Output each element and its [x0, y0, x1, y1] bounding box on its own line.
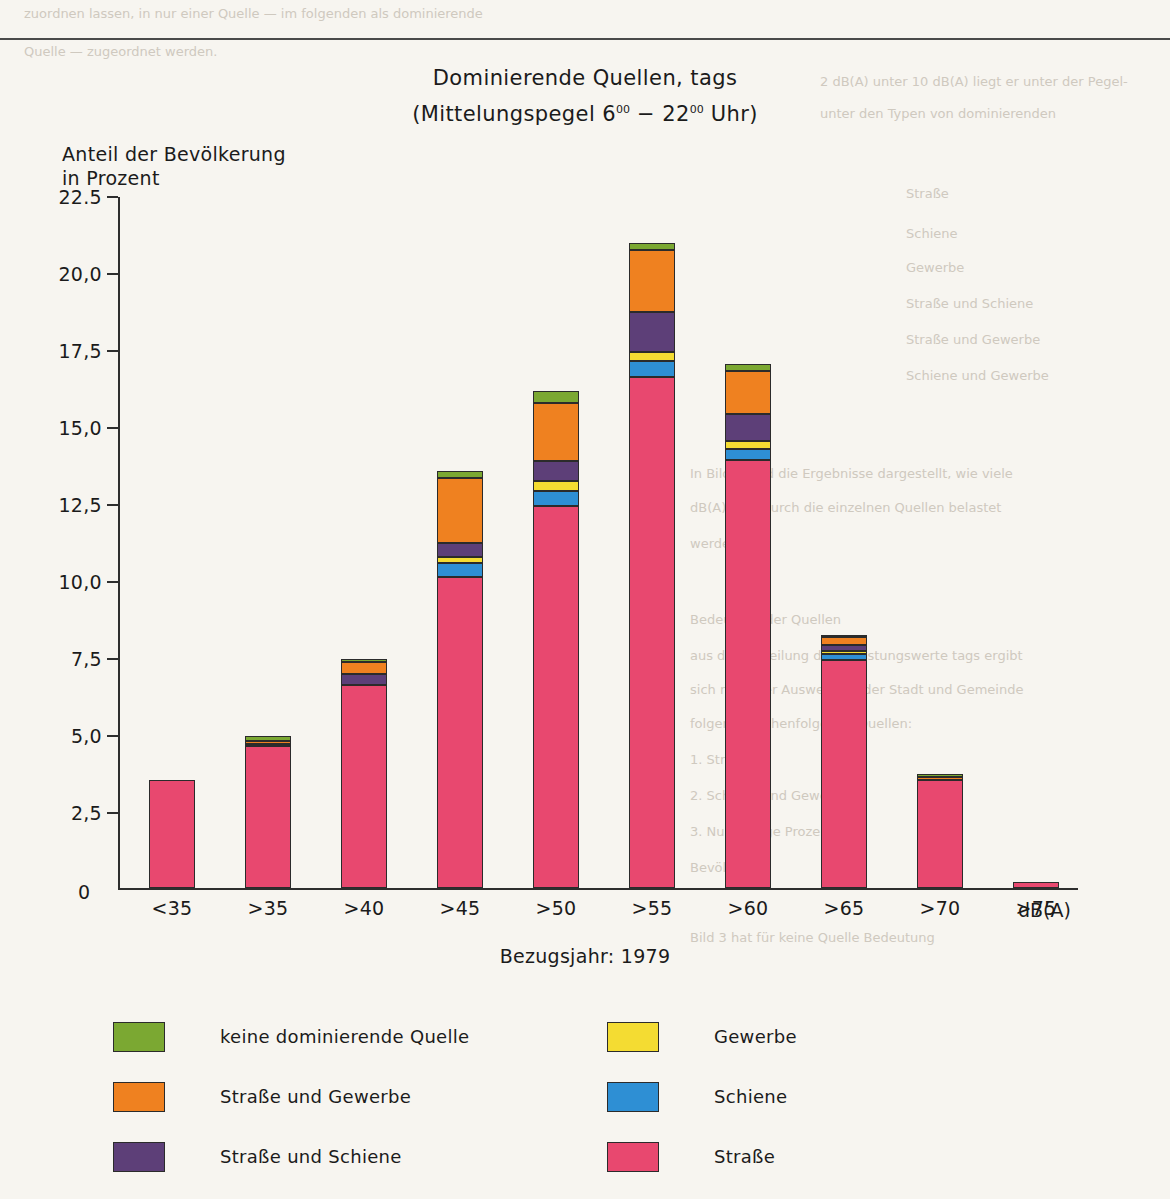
y-axis-line	[118, 197, 120, 890]
chart-subtitle: (Mittelungspegel 600 − 2200 Uhr)	[0, 94, 1170, 130]
bar-segment-3	[437, 543, 483, 557]
bar-segment-0	[437, 577, 483, 888]
chart-title: Dominierende Quellen, tags	[0, 62, 1170, 94]
bar-segment-5	[437, 471, 483, 479]
bar-gt50[interactable]: >50	[533, 391, 579, 888]
legend-column-left: keine dominierende QuelleStraße und Gewe…	[113, 1012, 469, 1192]
y-tick-mark	[107, 427, 118, 429]
y-tick-label: 5,0	[71, 725, 102, 747]
x-tick-label: >35	[248, 897, 289, 919]
bar-gt35[interactable]: >35	[245, 736, 291, 888]
x-axis-line	[118, 888, 1078, 890]
bar-segment-0	[341, 685, 387, 888]
legend-swatch-icon	[607, 1082, 659, 1112]
legend-item[interactable]: Schiene	[607, 1072, 797, 1121]
x-tick-label: >40	[344, 897, 385, 919]
bar-segment-3	[533, 461, 579, 481]
x-tick-label: >70	[920, 897, 961, 919]
bar-segment-1	[533, 491, 579, 506]
y-tick-label: 12,5	[58, 494, 102, 516]
bar-segment-1	[725, 449, 771, 460]
bar-segment-3	[341, 674, 387, 685]
bar-segment-5	[533, 391, 579, 403]
y-tick-label: 15,0	[58, 417, 102, 439]
bar-segment-0	[725, 460, 771, 888]
chart-subtitle-prefix: (Mittelungspegel 6	[412, 102, 616, 126]
x-tick-label: >65	[824, 897, 865, 919]
bar-segment-3	[629, 312, 675, 352]
bar-gt70[interactable]: >70	[917, 774, 963, 888]
y-tick-label: 22.5	[58, 186, 102, 208]
bar-gt65[interactable]: >65	[821, 635, 867, 888]
bar-gt45[interactable]: >45	[437, 471, 483, 888]
legend-swatch-icon	[113, 1142, 165, 1172]
bar-gt60[interactable]: >60	[725, 364, 771, 888]
legend-label: Straße	[714, 1146, 775, 1167]
chart-figure: Dominierende Quellen, tags (Mittelungspe…	[0, 0, 1170, 1199]
legend-swatch-icon	[607, 1142, 659, 1172]
legend-swatch-icon	[113, 1022, 165, 1052]
bar-gt75[interactable]: >75	[1013, 882, 1059, 888]
x-tick-label: >55	[632, 897, 673, 919]
bar-segment-1	[437, 563, 483, 577]
bar-segment-4	[533, 403, 579, 462]
bar-segment-4	[821, 637, 867, 645]
y-tick-mark	[107, 581, 118, 583]
bar-segment-0	[245, 746, 291, 888]
y-tick-label: 20,0	[58, 263, 102, 285]
x-tick-label: >50	[536, 897, 577, 919]
legend-label: keine dominierende Quelle	[220, 1026, 469, 1047]
y-tick-mark	[107, 812, 118, 814]
chart-subtitle-mid: − 22	[630, 102, 690, 126]
y-tick-mark	[107, 735, 118, 737]
bar-segment-4	[341, 662, 387, 674]
legend-item[interactable]: Gewerbe	[607, 1012, 797, 1061]
x-axis-unit-label: dB(A)	[1018, 899, 1071, 921]
chart-subtitle-sup-end: 00	[690, 103, 704, 116]
legend-swatch-icon	[607, 1022, 659, 1052]
y-axis-label: Anteil der Bevölkerung in Prozent	[62, 142, 286, 190]
legend-item[interactable]: Straße und Schiene	[113, 1132, 469, 1181]
bar-segment-0	[821, 660, 867, 888]
y-tick-label: 10,0	[58, 571, 102, 593]
bar-segment-5	[629, 243, 675, 251]
y-tick-label: 17,5	[58, 340, 102, 362]
chart-footnote: Bezugsjahr: 1979	[0, 945, 1170, 967]
bar-segment-1	[629, 361, 675, 376]
y-tick-mark	[107, 504, 118, 506]
y-tick-label: 0	[78, 881, 90, 903]
bar-segment-2	[629, 352, 675, 361]
legend-swatch-icon	[113, 1082, 165, 1112]
x-tick-label: >60	[728, 897, 769, 919]
y-tick-label: 7,5	[71, 648, 102, 670]
bar-gt55[interactable]: >55	[629, 243, 675, 888]
bar-segment-0	[149, 780, 195, 888]
legend-item[interactable]: Straße und Gewerbe	[113, 1072, 469, 1121]
y-tick-mark	[107, 196, 118, 198]
bar-segment-0	[917, 780, 963, 888]
legend-item[interactable]: keine dominierende Quelle	[113, 1012, 469, 1061]
x-tick-label: <35	[152, 897, 193, 919]
bar-segment-4	[725, 371, 771, 414]
bar-lt35[interactable]: <35	[149, 780, 195, 888]
bar-segment-0	[533, 506, 579, 888]
bar-segment-2	[725, 441, 771, 449]
bar-gt40[interactable]: >40	[341, 659, 387, 888]
y-tick-mark	[107, 273, 118, 275]
plot-area: 22.520,017,515,012,510,07,55,02,50 <35>3…	[118, 197, 1078, 890]
chart-title-block: Dominierende Quellen, tags (Mittelungspe…	[0, 62, 1170, 130]
legend-label: Straße und Gewerbe	[220, 1086, 411, 1107]
legend-label: Straße und Schiene	[220, 1146, 402, 1167]
legend-item[interactable]: Straße	[607, 1132, 797, 1181]
legend-label: Schiene	[714, 1086, 787, 1107]
y-tick-mark	[107, 658, 118, 660]
bar-segment-4	[437, 478, 483, 543]
bar-segment-0	[1013, 882, 1059, 888]
bar-segment-2	[533, 481, 579, 490]
bar-segment-0	[629, 377, 675, 888]
chart-subtitle-suffix: Uhr)	[704, 102, 758, 126]
y-tick-label: 2,5	[71, 802, 102, 824]
legend-label: Gewerbe	[714, 1026, 797, 1047]
legend-column-right: GewerbeSchieneStraße	[607, 1012, 797, 1192]
bar-segment-4	[629, 250, 675, 312]
